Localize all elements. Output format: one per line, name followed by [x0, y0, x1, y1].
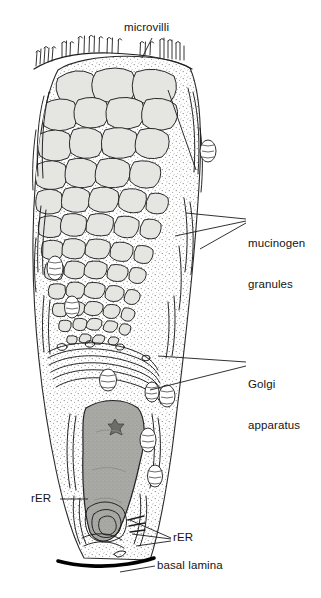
label-rer-left: rER: [31, 492, 51, 506]
label-golgi-line2: apparatus: [248, 419, 300, 433]
label-mucinogen-line2: granules: [248, 278, 305, 292]
goblet-cell-figure: microvilli mucinogen granules Golgi appa…: [0, 0, 321, 598]
label-basal-lamina: basal lamina: [157, 559, 223, 573]
label-rer-right: rER: [173, 531, 193, 545]
label-mucinogen-granules: mucinogen granules: [248, 210, 305, 318]
leader-mucinogen-c: [200, 223, 246, 249]
label-mucinogen-line1: mucinogen: [248, 237, 305, 251]
label-golgi-line1: Golgi: [248, 378, 300, 392]
leader-basal-lamina: [120, 566, 155, 572]
label-golgi-apparatus: Golgi apparatus: [248, 351, 300, 459]
label-microvilli: microvilli: [124, 21, 169, 35]
